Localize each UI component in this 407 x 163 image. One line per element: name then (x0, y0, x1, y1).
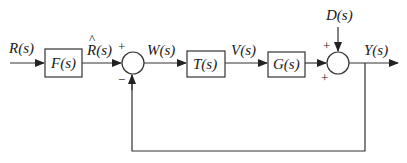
input-signal: R(s) (8, 40, 44, 63)
control-signal: V(s) (225, 42, 267, 63)
feedback-path (132, 63, 365, 151)
sum1-minus-sign: − (118, 72, 125, 87)
sum1-plus-sign: + (118, 39, 125, 54)
block-diagram: R(s) F(s) R(s) ^ + − W(s) T(s) V(s) G(s) (0, 0, 407, 163)
block-f: F(s) (45, 49, 82, 77)
sum2-left-plus-sign: + (321, 70, 328, 85)
error-label: W(s) (147, 42, 175, 59)
block-f-label: F(s) (50, 55, 76, 72)
output-signal: Y(s) (349, 42, 398, 63)
error-signal: W(s) (144, 42, 186, 63)
hat-accent: ^ (89, 31, 95, 46)
block-g-label: G(s) (273, 56, 300, 73)
summing-junction-1: + − (118, 39, 144, 87)
input-label: R(s) (8, 40, 34, 57)
sum2-top-plus-sign: + (323, 38, 330, 53)
summing-junction-2: + + (321, 38, 349, 85)
block-t: T(s) (187, 51, 225, 77)
prefiltered-signal: R(s) ^ (82, 31, 121, 63)
disturbance-label: D(s) (325, 7, 353, 24)
control-label: V(s) (231, 42, 256, 59)
output-label: Y(s) (364, 42, 388, 59)
block-g: G(s) (268, 52, 305, 77)
block-t-label: T(s) (193, 56, 217, 73)
